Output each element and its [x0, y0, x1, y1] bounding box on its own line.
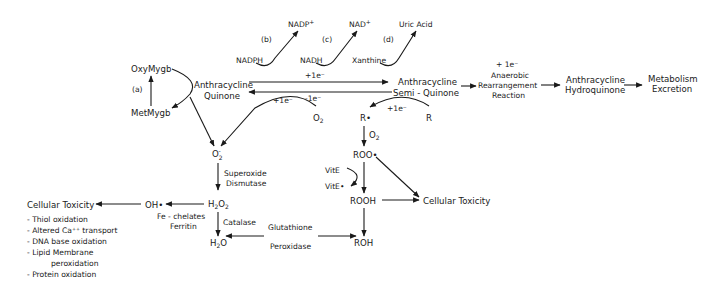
metmygb-label: MetMygb	[131, 108, 170, 118]
dismutase-line2: Dismutase	[226, 179, 267, 188]
toxicity-item: - Altered Ca⁺⁺ transport	[27, 226, 117, 235]
quinone-to-superoxide-arrow	[190, 97, 214, 146]
toxicity-item: peroxidation	[51, 259, 99, 268]
oxymygb-label: OxyMygb	[131, 64, 171, 74]
toxicity-item: - Protein oxidation	[27, 270, 96, 279]
toxicity-list: - Thiol oxidation - Altered Ca⁺⁺ transpo…	[27, 215, 117, 279]
nadh-label: NADH	[300, 56, 322, 65]
vite-radical-label: VitE•	[325, 182, 344, 191]
fe-chelates-line2: Ferritin	[170, 222, 197, 231]
reaction-c-label: (c)	[322, 35, 332, 44]
anthracycline-pathway-diagram: OxyMygb MetMygb (a) Anthracycline Quinon…	[0, 0, 711, 289]
roo-to-toxicity-arrow	[376, 157, 419, 197]
toxicity-item: - Thiol oxidation	[27, 215, 88, 224]
roh-label: ROH	[354, 238, 373, 248]
o2-to-roo-label: O2	[369, 130, 380, 141]
anthracycline-quinone-line1: Anthracycline	[194, 80, 253, 90]
semiquinone-line2: Semi - Quinone	[393, 88, 459, 98]
o2-to-superoxide-curve	[221, 96, 316, 146]
anaerobic-line2: Rearrangement	[478, 81, 537, 90]
catalase-label: Catalase	[223, 218, 256, 227]
anthracycline-quinone-line2: Quinone	[204, 91, 240, 101]
reaction-d-label: (d)	[383, 35, 394, 44]
vite-label: VitE	[325, 166, 340, 175]
anaerobic-line1: Anaerobic	[491, 71, 529, 80]
r-label: R	[426, 113, 432, 123]
nad-plus-label: NAD+	[349, 18, 371, 29]
h2o-label: H2O	[210, 238, 227, 249]
hydroquinone-line2: Hydroquinone	[565, 85, 625, 95]
metabolism-line2: Excretion	[652, 84, 692, 94]
nadph-label: NADPH	[236, 56, 263, 65]
o2-label: O2	[313, 113, 324, 124]
reaction-a-label: (a)	[132, 85, 143, 94]
peroxidase-label: Peroxidase	[270, 242, 311, 251]
roo-radical-label: ROO•	[353, 150, 378, 160]
toxicity-item: - DNA base oxidation	[27, 237, 107, 246]
glutathione-label: Glutathione	[268, 223, 313, 232]
dismutase-line1: Superoxide	[224, 169, 267, 178]
h2o2-label: H2O2	[208, 199, 229, 210]
toxicity-item: - Lipid Membrane	[27, 248, 94, 257]
metabolism-line1: Metabolism	[648, 74, 698, 84]
uric-acid-label: Uric Acid	[399, 20, 433, 29]
r-radical-label: R•	[360, 113, 371, 123]
vite-curve-arrow	[347, 168, 357, 186]
anaerobic-line3: Reaction	[492, 91, 525, 100]
reaction-b-label: (b)	[261, 35, 272, 44]
o2-electron-label: +1e⁻	[273, 96, 293, 105]
superoxide-label: O2-	[212, 147, 223, 161]
cellular-toxicity-right-label: Cellular Toxicity	[423, 196, 490, 206]
quinone-myoglobin-curve	[172, 69, 193, 108]
anaerobic-electron: + 1e⁻	[496, 60, 518, 69]
reverse-electron-label: -1e⁻	[305, 94, 321, 103]
forward-electron-label: +1e⁻	[305, 71, 325, 80]
cellular-toxicity-left-label: Cellular Toxicity	[27, 200, 94, 210]
oh-radical-label: OH•	[145, 200, 163, 210]
semiquinone-line1: Anthracycline	[398, 77, 457, 87]
nadp-plus-label: NADP+	[288, 18, 314, 29]
rooh-label: ROOH	[350, 196, 376, 206]
hydroquinone-line1: Anthracycline	[566, 75, 625, 85]
fe-chelates-line1: Fe - chelates	[157, 212, 205, 221]
r-electron-label: +1e⁻	[387, 104, 407, 113]
